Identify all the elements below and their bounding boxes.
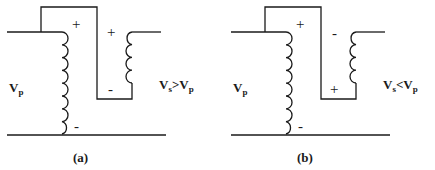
- primary-polarity-top: +: [296, 16, 304, 32]
- series-link-wire: [41, 7, 132, 99]
- secondary-polarity-bottom: -: [108, 81, 113, 97]
- caption-a: (a): [73, 150, 88, 165]
- series-link-wire: [265, 7, 356, 99]
- primary-coil: [286, 32, 292, 134]
- primary-polarity-bottom: -: [74, 118, 79, 134]
- secondary-voltage-relation: Vs>Vp: [159, 77, 194, 94]
- diagram-a: + - + - Vp Vs>Vp (a): [7, 7, 194, 165]
- primary-polarity-bottom: -: [298, 118, 303, 134]
- secondary-voltage-relation: Vs<Vp: [383, 77, 418, 94]
- diagram-b: + - - + Vp Vs<Vp (b): [231, 7, 418, 165]
- primary-polarity-top: +: [72, 16, 80, 32]
- secondary-polarity-bottom: +: [330, 81, 338, 97]
- primary-coil: [62, 32, 68, 134]
- primary-voltage-label: Vp: [9, 80, 23, 97]
- transformer-diagrams: + - + - Vp Vs>Vp (a) + - - + Vp Vs<Vp (b…: [0, 0, 435, 170]
- secondary-coil: [350, 32, 356, 83]
- primary-voltage-label: Vp: [233, 80, 247, 97]
- secondary-polarity-top: +: [107, 24, 115, 40]
- secondary-coil: [126, 32, 132, 83]
- caption-b: (b): [297, 150, 313, 165]
- secondary-polarity-top: -: [332, 25, 337, 41]
